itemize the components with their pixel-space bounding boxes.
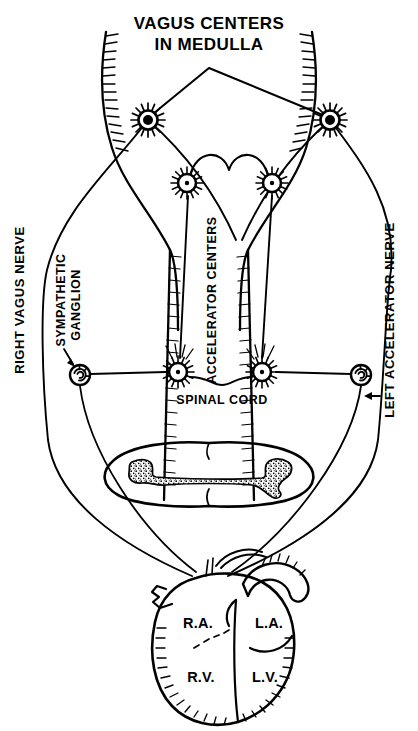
accelerator-center-neuron-left bbox=[256, 167, 288, 199]
chamber-label-left-ventricle: L.V. bbox=[252, 669, 278, 685]
title-line-2: IN MEDULLA bbox=[155, 35, 264, 54]
label-left-accelerator-nerve: LEFT ACCELERATOR NERVE bbox=[382, 222, 397, 417]
label-sympathetic-ganglion-line-2: GANGLION bbox=[69, 269, 83, 340]
chamber-label-left-atrium: L.A. bbox=[255, 615, 283, 631]
cord-neuron-right bbox=[162, 356, 194, 388]
label-accelerator-centers: ACCELERATOR CENTERS bbox=[205, 216, 219, 383]
vagus-center-neuron-right bbox=[131, 103, 165, 137]
sympathetic-ganglion-left bbox=[351, 365, 371, 385]
chamber-label-right-atrium: R.A. bbox=[183, 615, 213, 631]
label-spinal-cord: SPINAL CORD bbox=[176, 393, 267, 407]
anatomical-diagram-figure: VAGUS CENTERS IN MEDULLA bbox=[0, 0, 418, 731]
accelerator-center-neuron-right bbox=[171, 167, 203, 199]
label-sympathetic-ganglion-line-1: SYMPATHETIC bbox=[54, 253, 68, 346]
title-line-1: VAGUS CENTERS bbox=[134, 14, 284, 33]
label-right-vagus-nerve: RIGHT VAGUS NERVE bbox=[12, 226, 27, 374]
chamber-label-right-ventricle: R.V. bbox=[187, 669, 215, 685]
vagus-center-neuron-left bbox=[313, 103, 347, 137]
diagram-canvas: VAGUS CENTERS IN MEDULLA bbox=[0, 0, 418, 731]
sympathetic-ganglion-right bbox=[70, 365, 90, 385]
cord-neuron-left bbox=[246, 356, 278, 388]
